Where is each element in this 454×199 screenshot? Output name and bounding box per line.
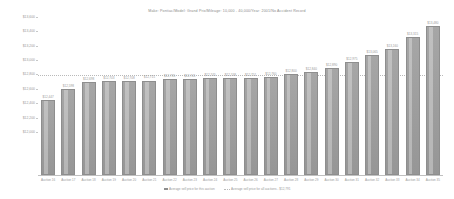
y-axis-tick-label: $12,800 [23, 72, 35, 76]
bar-group[interactable]: $12,447Auction 16 [38, 17, 58, 175]
bar-value-label: $12,800 [286, 70, 297, 73]
x-axis-category-label: Auction 18 [82, 178, 96, 182]
bar-group[interactable]: $13,315Auction 34 [403, 17, 423, 175]
bar-group[interactable]: $12,745Auction 24 [200, 17, 220, 175]
legend-item-series: Average sell price for this auction [164, 187, 215, 191]
bar-rect[interactable] [122, 81, 136, 175]
bar-rect[interactable] [304, 72, 318, 175]
bar-value-label: $12,975 [346, 58, 357, 61]
bar-rect[interactable] [244, 78, 258, 175]
bar-rect[interactable] [264, 77, 278, 175]
bar-value-label: $12,890 [326, 64, 337, 67]
bar-group[interactable]: $12,800Auction 28 [281, 17, 301, 175]
bar-value-label: $12,745 [205, 74, 216, 77]
y-axis-tick-label: $12,200 [23, 116, 35, 120]
y-axis-tick-label: $12,000 [23, 130, 35, 134]
bar-group[interactable]: $12,703Auction 19 [99, 17, 119, 175]
x-axis-category-label: Auction 24 [203, 178, 217, 182]
x-axis-category-label: Auction 26 [244, 178, 258, 182]
bar-swatch-icon [164, 188, 168, 191]
y-axis-tick-label: $13,400 [23, 29, 35, 33]
bar-rect[interactable] [203, 78, 217, 175]
x-axis-category-label: Auction 17 [61, 178, 75, 182]
bar-value-label: $12,715 [144, 76, 155, 79]
x-axis-baseline [38, 175, 443, 176]
bar-value-label: $12,708 [124, 77, 135, 80]
x-axis-category-label: Auction 34 [406, 178, 420, 182]
bar-group[interactable]: $12,760Auction 27 [261, 17, 281, 175]
bar-value-label: $12,447 [43, 96, 54, 99]
bar-rect[interactable] [41, 100, 55, 175]
bar-value-label: $12,735 [164, 75, 175, 78]
bar-group[interactable]: $12,741Auction 23 [180, 17, 200, 175]
x-axis-category-label: Auction 31 [345, 178, 359, 182]
bar-rect[interactable] [61, 89, 75, 175]
bar-value-label: $12,748 [225, 74, 236, 77]
bar-rect[interactable] [142, 81, 156, 175]
chart-legend: Average sell price for this auction Aver… [0, 187, 454, 191]
y-axis-tick-label: $13,200 [23, 44, 35, 48]
dotted-line-swatch-icon [224, 189, 230, 190]
x-axis-category-label: Auction 29 [304, 178, 318, 182]
bar-rect[interactable] [325, 68, 339, 175]
bar-value-label: $13,480 [427, 22, 438, 25]
chart-title: Make: Pontiac/Model: Grand Prix/Mileage:… [0, 9, 454, 13]
bar-group[interactable]: $13,160Auction 33 [382, 17, 402, 175]
bar-rect[interactable] [163, 79, 177, 175]
x-axis-category-label: Auction 25 [223, 178, 237, 182]
bar-value-label: $12,703 [103, 77, 114, 80]
x-axis-category-label: Auction 30 [325, 178, 339, 182]
bar-rect[interactable] [284, 74, 298, 175]
bar-rect[interactable] [82, 82, 96, 175]
bar-group[interactable]: $12,890Auction 30 [322, 17, 342, 175]
bar-value-label: $12,840 [306, 68, 317, 71]
legend-average-label: Average sell price for all auctions - $1… [231, 187, 290, 191]
bar-group[interactable]: $12,748Auction 25 [220, 17, 240, 175]
bar-value-label: $12,698 [83, 78, 94, 81]
bar-chart: Make: Pontiac/Model: Grand Prix/Mileage:… [0, 0, 454, 199]
x-axis-category-label: Auction 19 [102, 178, 116, 182]
bar-rect[interactable] [365, 55, 379, 175]
bar-group[interactable]: $12,751Auction 26 [241, 17, 261, 175]
plot-area: $13,600$13,400$13,200$13,000$12,800$12,6… [38, 17, 443, 175]
x-axis-category-label: Auction 16 [41, 178, 55, 182]
legend-series-label: Average sell price for this auction [169, 187, 215, 191]
x-axis-category-label: Auction 22 [163, 178, 177, 182]
y-axis-tick-label: $12,600 [23, 87, 35, 91]
bar-group[interactable]: $12,975Auction 31 [342, 17, 362, 175]
y-axis-tick-label: $12,400 [23, 101, 35, 105]
legend-item-average: Average sell price for all auctions - $1… [224, 187, 291, 191]
bar-rect[interactable] [223, 78, 237, 175]
bar-group[interactable]: $12,698Auction 18 [79, 17, 99, 175]
x-axis-category-label: Auction 35 [426, 178, 440, 182]
x-axis-category-label: Auction 20 [122, 178, 136, 182]
bar-value-label: $13,160 [387, 45, 398, 48]
x-axis-category-label: Auction 23 [183, 178, 197, 182]
bar-group[interactable]: $13,480Auction 35 [423, 17, 443, 175]
bar-group[interactable]: $12,708Auction 20 [119, 17, 139, 175]
bar-value-label: $12,598 [63, 85, 74, 88]
bar-rect[interactable] [183, 79, 197, 175]
bar-value-label: $13,065 [367, 51, 378, 54]
x-axis-category-label: Auction 28 [284, 178, 298, 182]
bar-value-label: $12,741 [184, 75, 195, 78]
x-axis-category-label: Auction 21 [142, 178, 156, 182]
bar-rect[interactable] [385, 49, 399, 175]
bar-rect[interactable] [102, 81, 116, 175]
bar-rect[interactable] [426, 26, 440, 175]
y-axis-tick-label: $13,000 [23, 58, 35, 62]
y-axis-tick-label: $13,600 [23, 15, 35, 19]
x-axis-category-label: Auction 27 [264, 178, 278, 182]
bar-value-label: $13,315 [407, 33, 418, 36]
bar-value-label: $12,760 [265, 73, 276, 76]
bar-rect[interactable] [406, 37, 420, 175]
bar-group[interactable]: $12,598Auction 17 [58, 17, 78, 175]
x-axis-category-label: Auction 32 [365, 178, 379, 182]
bar-group[interactable]: $12,715Auction 21 [139, 17, 159, 175]
bar-value-label: $12,751 [245, 74, 256, 77]
bar-group[interactable]: $12,735Auction 22 [160, 17, 180, 175]
bar-series: $12,447Auction 16$12,598Auction 17$12,69… [38, 17, 443, 175]
bar-rect[interactable] [345, 62, 359, 175]
bar-group[interactable]: $13,065Auction 32 [362, 17, 382, 175]
bar-group[interactable]: $12,840Auction 29 [301, 17, 321, 175]
